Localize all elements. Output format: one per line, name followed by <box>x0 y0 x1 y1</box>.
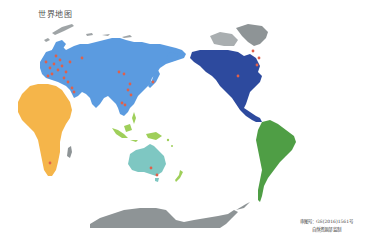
pacific-island <box>171 145 173 147</box>
region-north-america <box>190 50 262 122</box>
pacific-island <box>167 139 169 141</box>
location-marker <box>67 81 70 84</box>
location-marker <box>152 81 155 84</box>
location-marker <box>53 63 56 66</box>
region-antarctic-peninsula <box>236 202 250 210</box>
location-marker <box>69 61 72 64</box>
region-africa <box>18 84 72 176</box>
location-marker <box>237 75 240 78</box>
location-marker <box>121 102 124 105</box>
location-marker <box>57 69 60 72</box>
location-marker <box>81 57 84 60</box>
region-canadian-arctic <box>210 32 238 46</box>
location-marker <box>71 87 74 90</box>
map-footer: 审图号：GS(2016)1561号 自然资源部 监制 <box>300 218 353 234</box>
map-canvas <box>0 0 374 243</box>
location-marker <box>49 162 52 165</box>
location-marker <box>150 167 153 170</box>
region-southeast-asia-islands <box>112 112 162 142</box>
location-marker <box>129 83 132 86</box>
region-madagascar <box>67 146 72 158</box>
location-marker <box>256 64 259 67</box>
region-australia <box>128 144 166 176</box>
location-marker <box>73 91 76 94</box>
region-antarctica <box>90 208 238 228</box>
location-marker <box>123 73 126 76</box>
location-marker <box>49 67 52 70</box>
location-marker <box>63 77 66 80</box>
region-south-america <box>256 120 296 202</box>
location-marker <box>258 57 261 60</box>
location-marker <box>55 55 58 58</box>
publisher: 自然资源部 监制 <box>300 226 353 234</box>
location-marker <box>124 104 127 107</box>
location-marker <box>156 174 159 177</box>
location-marker <box>127 89 130 92</box>
location-marker <box>51 73 54 76</box>
location-marker <box>45 61 48 64</box>
region-new-zealand <box>175 170 183 182</box>
location-marker <box>65 71 68 74</box>
approval-number: 审图号：GS(2016)1561号 <box>300 218 353 226</box>
location-marker <box>59 59 62 62</box>
region-tasmania <box>155 178 159 182</box>
location-marker <box>252 50 255 53</box>
location-marker <box>118 71 121 74</box>
location-marker <box>47 75 50 78</box>
location-marker <box>130 94 133 97</box>
region-greenland <box>236 24 268 46</box>
location-marker <box>61 65 64 68</box>
world-map: 世界地图 <box>0 0 374 243</box>
